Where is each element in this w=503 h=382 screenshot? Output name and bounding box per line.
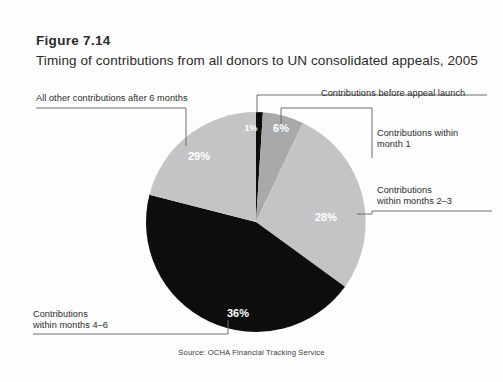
slice-label-within-month-1: 6%	[273, 122, 289, 134]
slice-label-within-months-4-6: 36%	[227, 307, 249, 319]
leader-line-after-6-months	[36, 108, 186, 146]
callout-within-months-2-3: Contributions within months 2–3	[377, 185, 497, 208]
slice-label-before-appeal-launch: 1%	[244, 123, 257, 133]
leader-line-within-months-2-3	[357, 211, 492, 214]
slice-label-after-6-months: 29%	[188, 150, 210, 162]
callout-within-months-4-6: Contributions within months 4–6	[33, 309, 163, 332]
callout-before-appeal-launch: Contributions before appeal launch	[321, 88, 496, 99]
slice-label-within-months-2-3: 28%	[315, 211, 337, 223]
figure-container: Figure 7.14 Timing of contributions from…	[0, 0, 503, 382]
source-note: Source: OCHA Financial Tracking Service	[0, 348, 503, 357]
callout-within-month-1: Contributions within month 1	[377, 128, 497, 151]
callout-after-6-months: All other contributions after 6 months	[36, 93, 226, 104]
